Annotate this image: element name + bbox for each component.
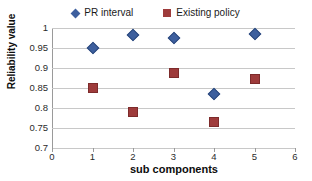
legend-label-existing-policy: Existing policy: [176, 8, 239, 18]
x-tick-label: 6: [292, 152, 297, 162]
data-point-marker: [250, 74, 260, 84]
data-point-marker: [167, 31, 180, 44]
data-point-marker: [86, 42, 99, 55]
x-tick-label: 3: [171, 152, 176, 162]
y-axis-title: Reliability value: [6, 0, 17, 107]
y-tick-label: 0.95: [30, 43, 49, 53]
data-point-marker: [248, 28, 261, 41]
y-tick-label: 0.7: [35, 143, 48, 153]
x-axis-title: sub components: [52, 163, 296, 175]
reliability-scatter-chart: PR interval Existing policy Reliability …: [0, 0, 312, 181]
gridline: [52, 128, 295, 129]
y-tick-label: 0.85: [30, 83, 49, 93]
y-tick-label: 1: [43, 23, 48, 33]
data-point-marker: [209, 117, 219, 127]
y-tick-label: 0.9: [35, 63, 48, 73]
x-tick-label: 1: [90, 152, 95, 162]
chart-legend: PR interval Existing policy: [0, 4, 312, 22]
gridline: [52, 108, 295, 109]
x-tick-label: 0: [49, 152, 54, 162]
square-marker-icon: [163, 9, 171, 17]
diamond-marker-icon: [71, 8, 81, 18]
data-point-marker: [88, 83, 98, 93]
y-tick-label: 0.8: [35, 103, 48, 113]
x-tick-label: 2: [130, 152, 135, 162]
data-point-marker: [208, 88, 221, 101]
gridline: [52, 28, 295, 29]
x-tick-label: 4: [211, 152, 216, 162]
legend-label-pr-interval: PR interval: [84, 8, 133, 18]
data-point-marker: [128, 107, 138, 117]
data-point-marker: [127, 29, 140, 42]
data-point-marker: [169, 68, 179, 78]
x-tick-label: 5: [252, 152, 257, 162]
plot-area: 0.70.750.80.850.90.951: [52, 28, 295, 148]
legend-item-pr-interval: PR interval: [72, 8, 133, 18]
legend-item-existing-policy: Existing policy: [163, 8, 239, 18]
y-tick-label: 0.75: [30, 123, 49, 133]
